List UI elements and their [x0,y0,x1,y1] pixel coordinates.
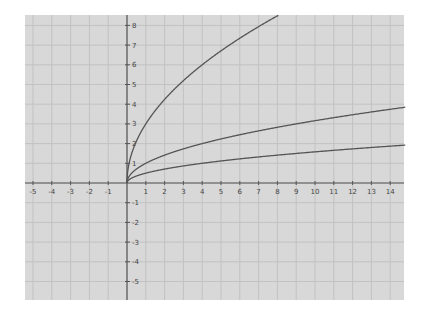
x-tick-label: 2 [162,188,166,196]
x-tick-label: 10 [311,188,320,196]
x-tick-label: 1 [144,188,148,196]
y-tick-label: 8 [132,22,136,30]
y-tick-label: 5 [132,81,136,89]
x-tick-label: 13 [367,188,376,196]
y-tick-label: -4 [132,258,140,266]
y-tick-label: -2 [132,219,139,227]
x-tick-label: -1 [105,188,112,196]
x-tick-label: 8 [275,188,279,196]
x-tick-label: 9 [294,188,298,196]
function-plot: -5-4-3-2-11234567891011121314 -5-4-3-2-1… [0,0,423,314]
x-tick-label: -4 [48,188,56,196]
y-tick-label: -3 [132,239,139,247]
y-tick-label: 3 [132,120,136,128]
x-tick-label: 5 [219,188,223,196]
x-tick-label: 11 [329,188,338,196]
y-tick-label: -1 [132,199,139,207]
y-tick-label: 4 [132,101,137,109]
x-tick-label: 3 [181,188,185,196]
x-tick-label: -2 [86,188,93,196]
plot-area [25,15,404,300]
y-tick-label: 7 [132,42,136,50]
y-tick-label: -5 [132,278,139,286]
x-tick-label: 6 [238,188,243,196]
x-tick-label: 4 [200,188,205,196]
x-tick-label: 14 [386,188,395,196]
y-tick-label: 6 [132,61,137,69]
y-tick-label: 1 [132,160,136,168]
x-tick-label: 12 [348,188,357,196]
x-tick-label: 7 [256,188,260,196]
x-tick-label: -3 [67,188,74,196]
x-tick-label: -5 [30,188,37,196]
